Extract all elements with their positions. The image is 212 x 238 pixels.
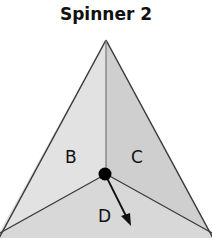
label-c: C bbox=[131, 147, 143, 167]
label-b: B bbox=[65, 147, 77, 167]
spinner-center-dot bbox=[99, 168, 112, 181]
spinner-diagram: B C D bbox=[0, 0, 212, 238]
label-d: D bbox=[98, 206, 111, 226]
